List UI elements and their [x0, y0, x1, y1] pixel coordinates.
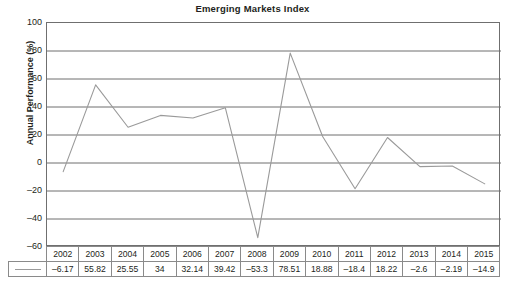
y-tick-neg20: –20: [8, 185, 42, 195]
chart-title: Emerging Markets Index: [0, 3, 505, 14]
table-row-values: –6.17 55.82 25.55 34 32.14 39.42 –53.3 7…: [9, 262, 500, 277]
table-row-years: 2002 2003 2004 2005 2006 2007 2008 2009 …: [9, 247, 500, 262]
table-value-2008: –53.3: [241, 262, 273, 277]
table-header-2007: 2007: [208, 247, 240, 262]
plot-svg: [47, 23, 501, 247]
table-value-2011: –18.4: [338, 262, 370, 277]
table-value-2005: 34: [144, 262, 176, 277]
y-tick-60: 60: [8, 73, 42, 83]
table-header-2006: 2006: [176, 247, 208, 262]
y-tick-80: 80: [8, 45, 42, 55]
table-value-2009: 78.51: [273, 262, 305, 277]
series-line-swatch-icon: [15, 269, 41, 270]
table-header-2012: 2012: [370, 247, 402, 262]
series-legend-cell: [9, 262, 47, 277]
table-value-2004: 25.55: [111, 262, 143, 277]
table-header-2002: 2002: [47, 247, 79, 262]
table-header-2014: 2014: [435, 247, 467, 262]
table-header-2009: 2009: [273, 247, 305, 262]
table-header-2011: 2011: [338, 247, 370, 262]
table-value-2013: –2.6: [403, 262, 435, 277]
table-value-2014: –2.19: [435, 262, 467, 277]
table-value-2003: 55.82: [79, 262, 111, 277]
table-value-2012: 18.22: [370, 262, 402, 277]
y-tick-neg40: –40: [8, 213, 42, 223]
chart-figure: Emerging Markets Index Annual Performanc…: [0, 0, 505, 291]
table-value-2006: 32.14: [176, 262, 208, 277]
y-tick-0: 0: [8, 157, 42, 167]
gridlines: [47, 51, 501, 219]
table-header-2015: 2015: [468, 247, 500, 262]
table-header-2004: 2004: [111, 247, 143, 262]
table-corner-cell: [9, 247, 47, 262]
table-header-2008: 2008: [241, 247, 273, 262]
table-header-2003: 2003: [79, 247, 111, 262]
table-value-2010: 18.88: [306, 262, 338, 277]
y-tick-100: 100: [8, 17, 42, 27]
plot-area: [46, 22, 500, 246]
table-value-2002: –6.17: [47, 262, 79, 277]
table-value-2015: –14.9: [468, 262, 500, 277]
table-header-2005: 2005: [144, 247, 176, 262]
data-table: 2002 2003 2004 2005 2006 2007 2008 2009 …: [8, 246, 500, 277]
y-tick-20: 20: [8, 129, 42, 139]
table-header-2010: 2010: [306, 247, 338, 262]
table-header-2013: 2013: [403, 247, 435, 262]
series-line-emerging-markets: [63, 53, 485, 238]
y-tick-40: 40: [8, 101, 42, 111]
table-value-2007: 39.42: [208, 262, 240, 277]
